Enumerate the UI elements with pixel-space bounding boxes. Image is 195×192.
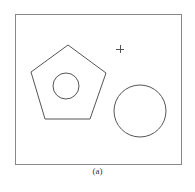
pentagon-shape xyxy=(31,45,106,119)
figure-canvas xyxy=(0,0,195,192)
large-circle-shape xyxy=(114,85,166,137)
figure-frame xyxy=(16,15,182,165)
figure-caption: (a) xyxy=(0,166,195,176)
inner-circle-shape xyxy=(53,73,79,99)
crosshair-icon xyxy=(116,45,124,53)
